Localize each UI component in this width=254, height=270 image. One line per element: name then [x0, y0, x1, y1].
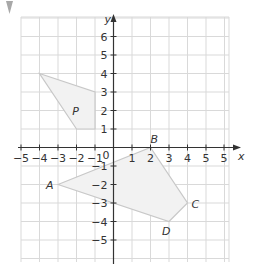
vertex-label-d: D: [162, 225, 170, 238]
x-tick-label: −4: [31, 152, 47, 165]
y-tick-label: −4: [91, 216, 107, 229]
y-tick-label: 6: [101, 31, 108, 44]
y-tick-label: −1: [91, 160, 107, 173]
labels: −5−4−3−2−1123455654321−1−2−3−4−50xyPABCD: [13, 13, 245, 247]
coordinate-plane: −5−4−3−2−1123455654321−1−2−3−4−50xyPABCD: [0, 0, 254, 270]
x-tick-label: 4: [184, 152, 191, 165]
triangle-down-icon: [6, 1, 13, 14]
y-tick-label: 3: [101, 86, 108, 99]
y-tick-label: −5: [91, 234, 107, 247]
vertex-label-a: A: [45, 179, 54, 192]
shape-p: [40, 74, 96, 130]
x-tick-label: 2: [147, 152, 154, 165]
x-axis-label: x: [237, 150, 245, 163]
x-tick-label: 3: [166, 152, 173, 165]
y-tick-label: −3: [91, 197, 107, 210]
y-tick-label: 4: [101, 68, 108, 81]
gridlines: [21, 17, 229, 262]
y-tick-label: −2: [91, 179, 107, 192]
vertex-label-b: B: [151, 133, 159, 146]
x-tick-label: 5: [203, 152, 210, 165]
origin-label: 0: [103, 149, 110, 162]
shape-p-label: P: [72, 105, 79, 118]
x-tick-label: −3: [50, 152, 66, 165]
y-tick-label: 5: [101, 49, 108, 62]
y-axis-label: y: [104, 13, 112, 26]
x-tick-label: −5: [13, 152, 29, 165]
y-tick-label: 1: [101, 123, 108, 136]
vertex-label-c: C: [192, 198, 200, 211]
axes: [18, 14, 241, 264]
x-tick-label: 5: [221, 152, 228, 165]
y-tick-label: 2: [101, 105, 108, 118]
x-tick-label: 1: [129, 152, 136, 165]
x-tick-label: −2: [68, 152, 84, 165]
